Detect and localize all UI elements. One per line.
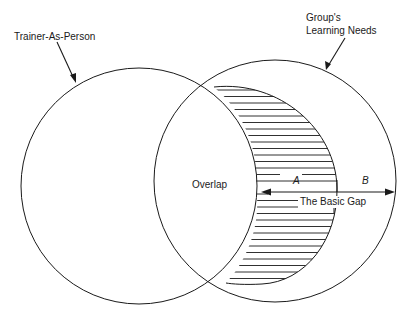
venn-diagram: Trainer-As-Person Group's Learning Needs… bbox=[0, 0, 411, 320]
trainer-pointer-arrow bbox=[57, 42, 76, 83]
learning-needs-label: Learning Needs bbox=[306, 25, 377, 36]
learning-needs-pointer-arrow bbox=[325, 38, 345, 70]
basic-gap-label: The Basic Gap bbox=[300, 196, 367, 207]
segment-a-label: A bbox=[292, 175, 300, 186]
segment-b-label: B bbox=[362, 175, 369, 186]
groups-label: Group's bbox=[306, 12, 341, 23]
overlap-label: Overlap bbox=[192, 179, 227, 190]
trainer-as-person-label: Trainer-As-Person bbox=[14, 31, 95, 42]
hatched-gap-region bbox=[150, 90, 350, 279]
